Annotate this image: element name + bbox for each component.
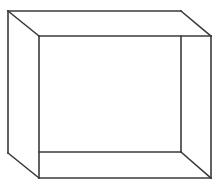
box-diagram [0,0,222,184]
top-right-diagonal [181,11,211,36]
bottom-right-diagonal [181,152,211,178]
bottom-left-diagonal [8,153,39,178]
top-left-diagonal [8,11,39,36]
box-drawing [0,0,222,184]
